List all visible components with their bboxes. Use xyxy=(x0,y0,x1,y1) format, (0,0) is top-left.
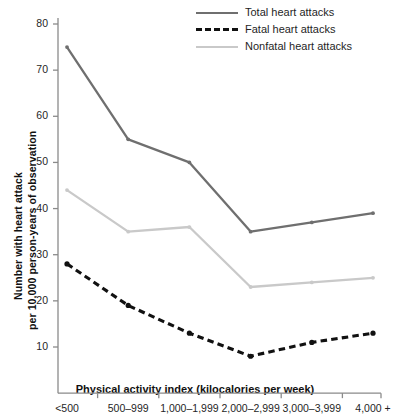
y-tick-label: 40 xyxy=(22,202,48,214)
y-tick-label: 70 xyxy=(22,63,48,75)
series-point xyxy=(310,281,314,285)
series-point xyxy=(371,276,375,280)
series-point xyxy=(188,161,192,165)
series-point xyxy=(126,303,131,308)
y-tick-label: 50 xyxy=(22,155,48,167)
y-tick-label: 20 xyxy=(22,294,48,306)
y-tick-label: 10 xyxy=(22,340,48,352)
series-point xyxy=(126,137,130,141)
series-point xyxy=(371,211,375,215)
series-line-nonfatal-heart-attacks xyxy=(67,190,373,287)
series-point xyxy=(310,221,314,225)
series-point xyxy=(188,225,192,229)
series-point xyxy=(65,45,69,49)
y-tick-label: 60 xyxy=(22,109,48,121)
series-line-fatal-heart-attacks xyxy=(67,264,373,356)
series-point xyxy=(248,354,253,359)
series-point xyxy=(370,331,375,336)
series-point xyxy=(309,340,314,345)
series-point xyxy=(65,188,69,192)
series-point xyxy=(249,285,253,289)
y-tick-label: 80 xyxy=(22,17,48,29)
series-point xyxy=(64,261,69,266)
series-line-total-heart-attacks xyxy=(67,47,373,232)
series-point xyxy=(187,331,192,336)
x-tick-label: 4,000 + xyxy=(336,402,395,414)
series-point xyxy=(126,230,130,234)
y-tick-label: 30 xyxy=(22,248,48,260)
series-point xyxy=(249,230,253,234)
